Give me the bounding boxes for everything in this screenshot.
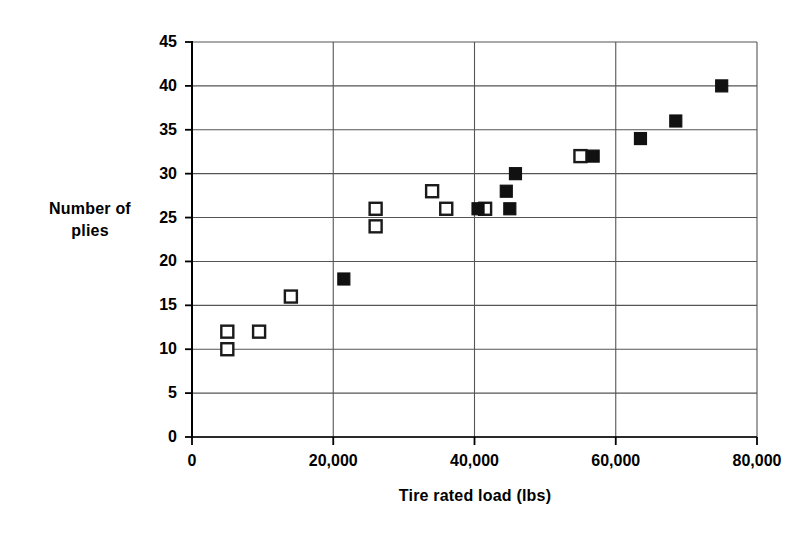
data-point-open-square	[426, 185, 438, 197]
data-point-filled-square	[670, 115, 682, 127]
data-point-filled-square	[634, 133, 646, 145]
data-point-filled-square	[500, 185, 512, 197]
data-point-open-square	[253, 326, 265, 338]
data-markers-open	[221, 150, 586, 355]
data-point-open-square	[440, 203, 452, 215]
data-point-open-square	[370, 203, 382, 215]
scatter-chart: Number of plies Tire rated load (lbs) 05…	[0, 0, 792, 537]
data-point-filled-square	[504, 203, 516, 215]
data-point-open-square	[574, 150, 586, 162]
data-point-filled-square	[716, 80, 728, 92]
data-point-open-square	[221, 343, 233, 355]
plot-area	[0, 0, 792, 537]
data-point-filled-square	[338, 273, 350, 285]
data-point-open-square	[285, 291, 297, 303]
data-point-open-square	[370, 220, 382, 232]
data-point-filled-square	[509, 168, 521, 180]
data-point-filled-square	[587, 150, 599, 162]
vertical-gridlines	[333, 42, 757, 437]
data-markers-filled	[338, 80, 728, 285]
axis-tick-marks	[185, 42, 757, 445]
data-point-filled-square	[472, 203, 484, 215]
data-point-open-square	[221, 326, 233, 338]
